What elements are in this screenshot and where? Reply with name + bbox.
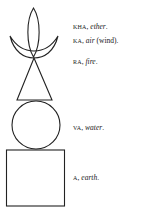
element-name: fire xyxy=(86,57,96,66)
element-name: ether xyxy=(90,22,105,31)
label-ka-air: KA, air (wind). xyxy=(73,37,118,45)
square-shape xyxy=(7,150,65,206)
label-va-water: VA, water. xyxy=(73,124,104,132)
circle-shape xyxy=(12,101,60,149)
syllable: RA xyxy=(73,57,82,66)
label-ra-fire: RA, fire. xyxy=(73,58,98,66)
five-element-figure xyxy=(0,0,142,216)
element-name: water xyxy=(85,123,102,132)
label-kha-ether: KHA, ether. xyxy=(73,23,108,31)
label-a-earth: A, earth. xyxy=(73,174,99,182)
element-name: air xyxy=(86,36,95,45)
syllable: KHA xyxy=(73,22,87,31)
crescent-shape xyxy=(10,36,58,58)
leaf-flame-shape xyxy=(28,8,39,57)
syllable: KA xyxy=(73,36,82,45)
triangle-shape xyxy=(17,58,52,100)
element-name: earth xyxy=(81,173,97,182)
